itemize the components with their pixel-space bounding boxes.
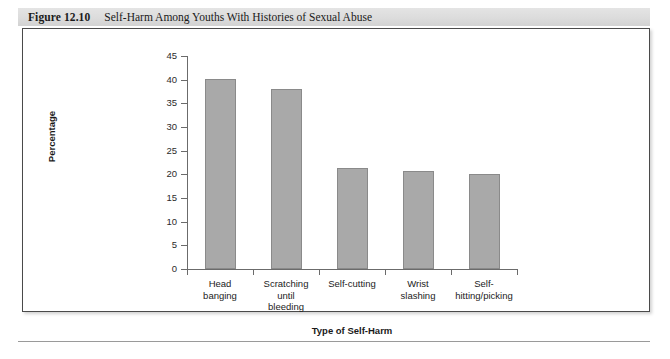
figure-title: Self-Harm Among Youths With Histories of… xyxy=(104,11,372,23)
x-tick-mark xyxy=(451,269,452,275)
y-tick-label: 40 xyxy=(141,74,177,85)
y-tick-mark xyxy=(181,103,188,104)
x-tick-mark xyxy=(319,269,320,275)
category-label: Scratching until bleeding xyxy=(253,278,319,313)
x-tick-mark xyxy=(187,269,188,275)
category-label: Head banging xyxy=(187,278,253,301)
category-label: Self-cutting xyxy=(319,278,385,290)
y-tick-mark xyxy=(181,245,188,246)
y-tick-label: 20 xyxy=(141,168,177,179)
y-tick-label: 0 xyxy=(141,263,177,274)
y-tick-mark xyxy=(181,198,188,199)
y-tick-label: 10 xyxy=(141,216,177,227)
x-tick-mark xyxy=(517,269,518,275)
y-tick-mark xyxy=(181,80,188,81)
figure-number: Figure 12.10 xyxy=(28,11,90,23)
y-tick-label: 15 xyxy=(141,192,177,203)
x-axis-line xyxy=(187,269,517,270)
figure-caption-band: Figure 12.10 Self-Harm Among Youths With… xyxy=(18,8,650,26)
bar xyxy=(403,171,434,269)
page-bottom-rule xyxy=(18,341,650,342)
y-tick-mark xyxy=(181,151,188,152)
y-tick-mark xyxy=(181,127,188,128)
x-tick-mark xyxy=(253,269,254,275)
bar xyxy=(337,168,368,269)
bar xyxy=(271,89,302,269)
bar-chart-plot-area: 051015202530354045 Head bangingScratchin… xyxy=(23,29,649,311)
y-axis-line xyxy=(187,56,188,269)
y-tick-label: 45 xyxy=(141,50,177,61)
y-tick-label: 25 xyxy=(141,145,177,156)
y-tick-label: 35 xyxy=(141,97,177,108)
y-tick-label: 30 xyxy=(141,121,177,132)
y-tick-mark xyxy=(181,174,188,175)
chart-frame: 051015202530354045 Head bangingScratchin… xyxy=(22,28,650,312)
y-tick-label: 5 xyxy=(141,239,177,250)
y-axis-title: Percentage xyxy=(46,92,57,182)
y-tick-mark xyxy=(181,56,188,57)
x-axis-title: Type of Self-Harm xyxy=(187,325,517,336)
x-tick-mark xyxy=(385,269,386,275)
category-label: Wrist slashing xyxy=(385,278,451,301)
y-tick-mark xyxy=(181,222,188,223)
bar xyxy=(469,174,500,269)
bar xyxy=(205,79,236,269)
category-label: Self- hitting/picking xyxy=(451,278,517,301)
